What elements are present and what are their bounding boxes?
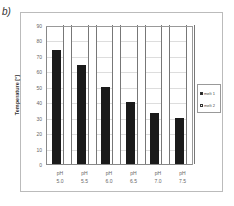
bar-melt-2 xyxy=(161,25,170,164)
y-tick-label: 80 xyxy=(24,38,42,44)
bar-melt-1 xyxy=(126,102,135,164)
x-tick-label: pH6.5 xyxy=(122,169,146,185)
legend-swatch-melt-2 xyxy=(200,104,203,107)
panel-label: b) xyxy=(2,6,11,17)
legend-item-melt-1: melt 1 xyxy=(200,91,215,96)
legend-label: melt 2 xyxy=(204,103,215,108)
legend-swatch-melt-1 xyxy=(200,92,203,95)
y-tick-label: 20 xyxy=(24,131,42,137)
y-axis-label: Temperature [°] xyxy=(14,75,20,115)
y-tick-label: 10 xyxy=(24,147,42,153)
x-tick-label: pH5.5 xyxy=(73,169,97,185)
y-tick-label: 40 xyxy=(24,100,42,106)
bar-melt-2 xyxy=(137,25,146,164)
plot-area xyxy=(46,26,193,165)
bar-melt-1 xyxy=(101,87,110,164)
x-tick-label: pH6.0 xyxy=(97,169,121,185)
legend: melt 1 melt 2 xyxy=(197,84,221,113)
legend-item-melt-2: melt 2 xyxy=(200,103,215,108)
plot-top-border xyxy=(46,26,193,27)
y-tick-label: 30 xyxy=(24,116,42,122)
bar-melt-1 xyxy=(150,113,159,164)
legend-label: melt 1 xyxy=(204,91,215,96)
plot-right-border xyxy=(192,26,193,165)
y-tick-label: 60 xyxy=(24,69,42,75)
bar-melt-1 xyxy=(52,50,61,164)
y-tick-label: 90 xyxy=(24,23,42,29)
bar-melt-2 xyxy=(88,25,97,164)
bar-melt-2 xyxy=(63,25,72,164)
bar-melt-1 xyxy=(77,65,86,164)
y-tick-label: 0 xyxy=(24,162,42,168)
x-tick-label: pH7.0 xyxy=(146,169,170,185)
y-tick-label: 50 xyxy=(24,85,42,91)
x-tick-label: pH7.5 xyxy=(171,169,195,185)
y-tick-label: 70 xyxy=(24,54,42,60)
x-tick-label: pH5.0 xyxy=(48,169,72,185)
bar-melt-2 xyxy=(112,25,121,164)
bar-melt-1 xyxy=(175,118,184,164)
bar-melt-2 xyxy=(186,25,195,164)
